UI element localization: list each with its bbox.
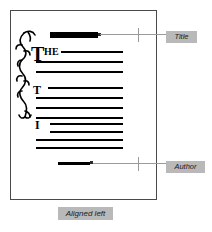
text-line	[48, 87, 123, 89]
text-line	[36, 61, 123, 63]
body-text-block	[36, 47, 126, 147]
title-leader-line	[100, 34, 166, 35]
title-bar	[50, 32, 98, 38]
title-leader-tick	[138, 28, 139, 42]
text-line	[36, 117, 123, 119]
text-line	[36, 147, 123, 149]
text-line	[36, 107, 123, 109]
author-bar	[58, 162, 90, 165]
text-line	[50, 123, 123, 125]
callout-label-author[interactable]: Author	[166, 161, 205, 173]
diagram-canvas: T HE T I Title Author Aligned left	[0, 0, 212, 232]
text-line	[36, 139, 123, 141]
author-leader-tick	[138, 157, 139, 171]
author-leader-line	[93, 163, 166, 164]
callout-label-title[interactable]: Title	[166, 31, 197, 43]
text-line	[36, 71, 123, 73]
text-line	[61, 51, 123, 53]
text-line	[50, 131, 123, 133]
text-line	[36, 97, 123, 99]
caption-aligned-left: Aligned left	[58, 207, 113, 220]
